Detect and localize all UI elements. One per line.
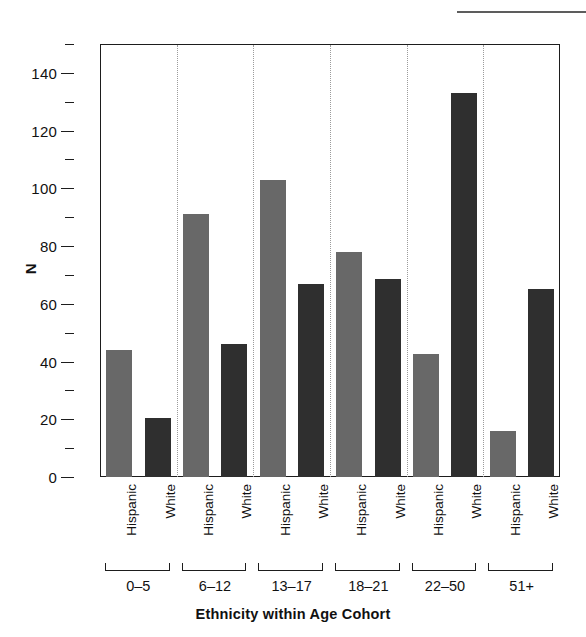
bar-612-hispanic bbox=[183, 214, 209, 477]
y-tick-minor bbox=[65, 275, 74, 276]
bar-1317-white bbox=[298, 284, 324, 477]
series-tick-label: Hispanic bbox=[201, 484, 216, 536]
cohort-bracket bbox=[258, 563, 323, 571]
y-tick-label: 60 bbox=[40, 295, 57, 312]
y-tick-label: 20 bbox=[40, 411, 57, 428]
y-tick-major bbox=[61, 131, 74, 132]
cohort-label: 51+ bbox=[483, 578, 560, 594]
y-tick-minor bbox=[65, 448, 74, 449]
y-tick-major bbox=[61, 73, 74, 74]
bar-2250-hispanic bbox=[413, 354, 439, 477]
bar-05-hispanic bbox=[106, 350, 132, 477]
bar-1317-hispanic bbox=[260, 180, 286, 477]
y-tick-label: 0 bbox=[48, 469, 57, 486]
cohort-bracket bbox=[335, 563, 400, 571]
bar-51+-hispanic bbox=[490, 431, 516, 477]
cohort-label: 6–12 bbox=[177, 578, 254, 594]
cohort-bracket bbox=[412, 563, 477, 571]
y-tick-minor bbox=[65, 333, 74, 334]
series-tick-label: White bbox=[239, 484, 254, 519]
y-tick-major bbox=[61, 362, 74, 363]
series-tick-label: Hispanic bbox=[124, 484, 139, 536]
bar-612-white bbox=[221, 344, 247, 477]
y-tick-major bbox=[61, 246, 74, 247]
y-tick-minor bbox=[65, 217, 74, 218]
cohort-bracket bbox=[182, 563, 247, 571]
cohort-label: 18–21 bbox=[330, 578, 407, 594]
cohort-bracket bbox=[105, 563, 170, 571]
x-axis-title: Ethnicity within Age Cohort bbox=[0, 606, 586, 622]
bar-05-white bbox=[145, 418, 171, 477]
y-tick-minor bbox=[65, 102, 74, 103]
series-tick-label: Hispanic bbox=[508, 484, 523, 536]
series-tick-label: White bbox=[469, 484, 484, 519]
bar-1821-hispanic bbox=[336, 252, 362, 477]
series-tick-label: White bbox=[163, 484, 178, 519]
series-tick-label: White bbox=[546, 484, 561, 519]
bar-51+-white bbox=[528, 289, 554, 477]
y-tick-minor bbox=[65, 44, 74, 45]
bar-1821-white bbox=[375, 279, 401, 477]
series-tick-label: Hispanic bbox=[278, 484, 293, 536]
cohort-label: 13–17 bbox=[253, 578, 330, 594]
y-tick-minor bbox=[65, 159, 74, 160]
y-tick-major bbox=[61, 419, 74, 420]
bars-layer bbox=[100, 44, 560, 477]
y-tick-label: 140 bbox=[31, 64, 57, 81]
series-tick-label: White bbox=[316, 484, 331, 519]
y-tick-label: 120 bbox=[31, 122, 57, 139]
bar-chart-figure: N 020406080100120140 HispanicWhiteHispan… bbox=[0, 0, 586, 637]
y-tick-major bbox=[61, 188, 74, 189]
bar-2250-white bbox=[451, 93, 477, 477]
series-tick-label: White bbox=[393, 484, 408, 519]
series-tick-label: Hispanic bbox=[354, 484, 369, 536]
y-tick-label: 40 bbox=[40, 353, 57, 370]
y-axis: 020406080100120140 bbox=[0, 0, 100, 637]
cohort-label: 22–50 bbox=[407, 578, 484, 594]
y-tick-major bbox=[61, 477, 74, 478]
series-tick-label: Hispanic bbox=[431, 484, 446, 536]
y-tick-minor bbox=[65, 390, 74, 391]
cohort-label: 0–5 bbox=[100, 578, 177, 594]
y-tick-major bbox=[61, 304, 74, 305]
y-tick-label: 80 bbox=[40, 238, 57, 255]
cohort-bracket bbox=[488, 563, 553, 571]
y-tick-label: 100 bbox=[31, 180, 57, 197]
